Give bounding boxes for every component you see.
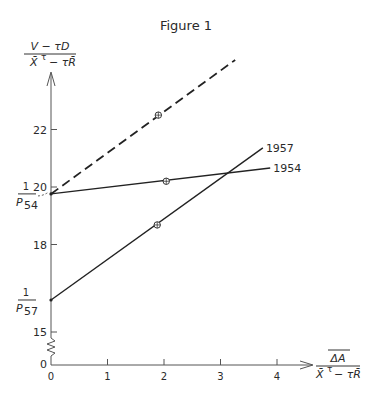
y-axis-label-denominator-b: − τR̄ <box>49 56 76 69</box>
x-tick-label: 3 <box>217 371 223 382</box>
y-tick-label: 20 <box>33 181 47 194</box>
intercept-label-subscript: 54 <box>24 199 38 212</box>
intercept-label-numerator: 1 <box>23 287 29 298</box>
y-axis-label-denominator-a: X̄ <box>29 56 38 69</box>
chart: Figure 1 V − τD X̄ τ − τR̄ ΔA X̄ τ − τR̄… <box>0 0 372 398</box>
x-tick-label: 1 <box>104 371 110 382</box>
y-origin-label: 0 <box>40 358 47 371</box>
series-line-dashed <box>51 60 235 194</box>
series-label-1954: 1954 <box>273 162 301 175</box>
y-axis-label-denominator-sup: τ <box>41 52 46 62</box>
intercept-label-numerator: 1 <box>23 181 29 192</box>
chart-marks: 19541957 <box>49 60 301 302</box>
x-tick-label: 4 <box>274 371 280 382</box>
y-axis-label-numerator: V − τD <box>31 40 70 53</box>
x-axis-label: ΔA X̄ τ − τR̄ <box>315 350 361 381</box>
chart-title: Figure 1 <box>160 18 212 33</box>
y-tick-label: 22 <box>33 124 47 137</box>
intercept-label-denominator: P <box>16 196 23 209</box>
axes: 012341518202201P541P57 <box>16 72 313 382</box>
intercept-label-subscript: 57 <box>24 305 38 318</box>
x-tick-label: 0 <box>48 371 54 382</box>
x-tick-label: 2 <box>161 371 167 382</box>
intercept-label-denominator: P <box>16 302 23 315</box>
x-axis-label-denominator-b: − τR̄ <box>334 368 361 381</box>
y-axis-label: V − τD X̄ τ − τR̄ <box>24 40 76 69</box>
y-tick-label: 15 <box>33 326 47 339</box>
y-tick-label: 18 <box>33 239 47 252</box>
series-line-1954 <box>51 168 270 194</box>
series-label-1957: 1957 <box>266 142 294 155</box>
x-axis-label-denominator-sup: τ <box>327 364 332 374</box>
x-axis-label-denominator-a: X̄ <box>315 368 324 381</box>
